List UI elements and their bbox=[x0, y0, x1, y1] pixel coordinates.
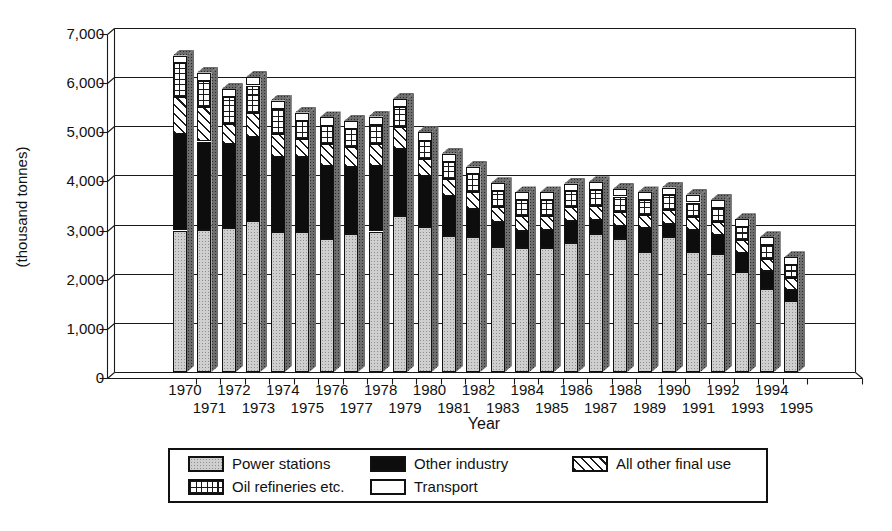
bar-1970-segment-other-industry bbox=[173, 134, 187, 230]
bar-1991-segment-transport bbox=[686, 195, 700, 203]
x-tick-label-1989: 1989 bbox=[626, 400, 674, 416]
bar-1989-segment-power-stations bbox=[638, 252, 652, 372]
bar-1975-segment-other-industry bbox=[295, 157, 309, 232]
bar-1977-segment-power-stations bbox=[344, 234, 358, 372]
x-tick-label-1993: 1993 bbox=[723, 400, 771, 416]
bar-1973-segment-all-other-final-use bbox=[246, 113, 260, 137]
legend-label-transport: Transport bbox=[414, 478, 478, 495]
bar-1981-segment-power-stations bbox=[442, 236, 456, 372]
bar-1990-segment-all-other-final-use bbox=[662, 210, 676, 224]
legend-swatch-transport bbox=[370, 479, 406, 495]
bar-1985-side-face bbox=[554, 186, 561, 372]
legend-swatch-all-other-final-use bbox=[572, 456, 608, 472]
bar-1979-segment-all-other-final-use bbox=[393, 127, 407, 149]
bar-1979-side-face bbox=[407, 93, 414, 372]
bar-1985-segment-transport bbox=[540, 192, 554, 200]
bar-1989-segment-oil-refineries-etc bbox=[638, 200, 652, 215]
bar-1970-side-face bbox=[187, 50, 194, 373]
x-tick-label-1988: 1988 bbox=[601, 382, 649, 398]
x-tick-label-1972: 1972 bbox=[210, 382, 258, 398]
x-tick-label-1980: 1980 bbox=[406, 382, 454, 398]
bar-1973-segment-other-industry bbox=[246, 137, 260, 221]
bar-1981-segment-other-industry bbox=[442, 196, 456, 236]
bar-1978-side-face bbox=[383, 111, 390, 373]
bar-1994-segment-oil-refineries-etc bbox=[760, 245, 774, 259]
bar-1986-segment-transport bbox=[564, 184, 578, 191]
bar-1982-segment-other-industry bbox=[466, 209, 480, 237]
x-tick-label-1970: 1970 bbox=[161, 382, 209, 398]
bar-1994-segment-other-industry bbox=[760, 271, 774, 289]
bar-1983-segment-power-stations bbox=[491, 247, 505, 372]
bar-1993-segment-all-other-final-use bbox=[735, 240, 749, 253]
legend-label-oil-refineries: Oil refineries etc. bbox=[232, 478, 345, 495]
bar-1992-segment-all-other-final-use bbox=[711, 222, 725, 234]
x-tick-label-1986: 1986 bbox=[552, 382, 600, 398]
bar-1995-segment-transport bbox=[784, 257, 798, 264]
bar-1986-side-face bbox=[578, 178, 585, 372]
bar-1986-segment-oil-refineries-etc bbox=[564, 191, 578, 207]
bar-1984-side-face bbox=[529, 186, 536, 372]
bar-1992-segment-transport bbox=[711, 200, 725, 208]
x-tick-label-1979: 1979 bbox=[381, 400, 429, 416]
bar-1994-segment-transport bbox=[760, 237, 774, 244]
bar-1982-segment-transport bbox=[466, 167, 480, 174]
x-tick-label-1981: 1981 bbox=[430, 400, 478, 416]
bar-1979-segment-power-stations bbox=[393, 216, 407, 372]
bar-1990-side-face bbox=[676, 182, 683, 373]
bar-1973-segment-oil-refineries-etc bbox=[246, 86, 260, 114]
bar-1983-side-face bbox=[505, 177, 512, 372]
x-tick-label-1976: 1976 bbox=[308, 382, 356, 398]
bar-1987-segment-power-stations bbox=[589, 234, 603, 372]
bar-1974-segment-power-stations bbox=[271, 232, 285, 372]
bar-1989-side-face bbox=[652, 186, 659, 372]
legend-swatch-power-stations bbox=[188, 456, 224, 472]
y-tick-label-1000: 1,000 bbox=[44, 321, 104, 337]
bar-1977-segment-oil-refineries-etc bbox=[344, 129, 358, 147]
bar-1982-segment-power-stations bbox=[466, 237, 480, 372]
bar-1993-side-face bbox=[749, 213, 756, 372]
legend: Power stations Oil refineries etc. Other… bbox=[168, 448, 768, 503]
bar-1980-segment-oil-refineries-etc bbox=[418, 141, 432, 159]
bar-1983-segment-other-industry bbox=[491, 222, 505, 246]
legend-swatch-other-industry bbox=[370, 456, 406, 472]
bar-1983-segment-all-other-final-use bbox=[491, 207, 505, 222]
bar-1991-segment-oil-refineries-etc bbox=[686, 203, 700, 217]
bar-1994-segment-all-other-final-use bbox=[760, 259, 774, 271]
bar-1995-segment-power-stations bbox=[784, 301, 798, 372]
bar-1991-segment-power-stations bbox=[686, 252, 700, 372]
bar-1973-side-face bbox=[260, 71, 267, 372]
bar-1984-segment-all-other-final-use bbox=[515, 216, 529, 231]
bar-1989-segment-all-other-final-use bbox=[638, 215, 652, 228]
y-tick-label-4000: 4,000 bbox=[44, 173, 104, 189]
bar-1977-side-face bbox=[358, 115, 365, 372]
bar-1991-segment-all-other-final-use bbox=[686, 217, 700, 230]
x-tick-label-1977: 1977 bbox=[332, 400, 380, 416]
bar-1977-segment-other-industry bbox=[344, 167, 358, 234]
bar-1987-segment-other-industry bbox=[589, 220, 603, 235]
bar-1975-side-face bbox=[309, 107, 316, 373]
bar-1992-segment-other-industry bbox=[711, 235, 725, 254]
bar-1974-segment-other-industry bbox=[271, 157, 285, 232]
bar-1981-segment-all-other-final-use bbox=[442, 179, 456, 196]
bar-1994-side-face bbox=[774, 231, 781, 372]
bar-1980-segment-all-other-final-use bbox=[418, 159, 432, 176]
bar-1988-segment-transport bbox=[613, 189, 627, 197]
bar-1970-segment-all-other-final-use bbox=[173, 97, 187, 134]
legend-label-all-other-final-use: All other final use bbox=[616, 455, 731, 472]
legend-item-oil-refineries: Oil refineries etc. bbox=[188, 478, 345, 495]
bar-1986-segment-power-stations bbox=[564, 243, 578, 372]
bar-1970-segment-oil-refineries-etc bbox=[173, 63, 187, 96]
bar-1973-segment-transport bbox=[246, 77, 260, 85]
bar-1980-segment-power-stations bbox=[418, 227, 432, 372]
x-tick-label-1987: 1987 bbox=[577, 400, 625, 416]
bar-1993-segment-oil-refineries-etc bbox=[735, 227, 749, 240]
x-tick-label-1991: 1991 bbox=[674, 400, 722, 416]
bar-1981-segment-oil-refineries-etc bbox=[442, 162, 456, 179]
x-tick-label-1990: 1990 bbox=[650, 382, 698, 398]
legend-swatch-oil-refineries bbox=[188, 479, 224, 495]
x-axis-title: Year bbox=[434, 415, 534, 433]
bar-1985-segment-other-industry bbox=[540, 230, 554, 248]
bar-1992-segment-power-stations bbox=[711, 254, 725, 372]
bar-1987-segment-all-other-final-use bbox=[589, 206, 603, 220]
x-tick-label-1975: 1975 bbox=[283, 400, 331, 416]
